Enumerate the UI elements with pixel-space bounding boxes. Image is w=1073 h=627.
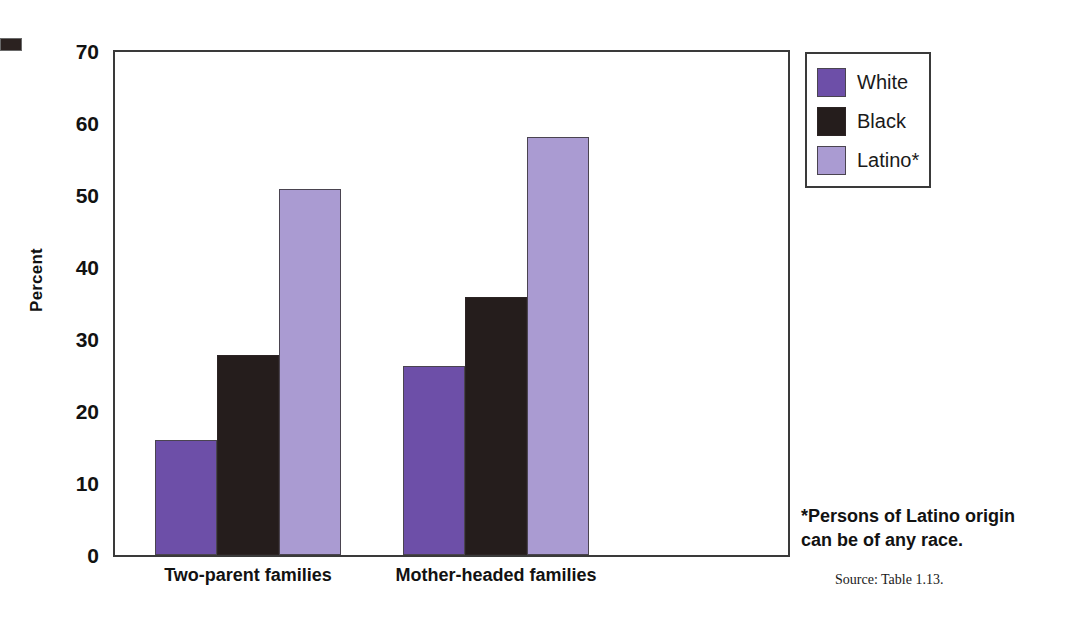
legend-label: Latino* (857, 149, 919, 172)
y-tick-label-0: 0 (39, 545, 99, 566)
legend-swatch-latino-icon (817, 146, 846, 175)
legend-swatch-white-icon (817, 68, 846, 97)
legend-label: White (857, 71, 908, 94)
legend-swatch-black-icon (817, 107, 846, 136)
bar-black-group-1 (217, 355, 279, 555)
bar-white-group-2 (403, 366, 465, 555)
legend-row-black: Black (817, 102, 929, 141)
legend-row-white: White (817, 63, 929, 102)
bar-white-group-1 (155, 440, 217, 555)
source-note: Source: Table 1.13. (835, 572, 943, 588)
y-tick-label-10: 10 (39, 473, 99, 494)
y-tick-label-40: 40 (39, 257, 99, 278)
bar-latino-group-1 (279, 189, 341, 555)
x-axis-group-label-2: Mother-headed families (346, 565, 646, 586)
chart-legend: WhiteBlackLatino* (805, 52, 931, 188)
legend-row-latino: Latino* (817, 141, 929, 180)
legend-label: Black (857, 110, 906, 133)
y-tick-label-20: 20 (39, 401, 99, 422)
footnote-line-1: *Persons of Latino origin (801, 505, 1066, 529)
footnote: *Persons of Latino origin can be of any … (801, 505, 1066, 553)
bar-latino-group-2 (527, 137, 589, 555)
bar-black-group-2 (465, 297, 527, 555)
y-tick-label-30: 30 (39, 329, 99, 350)
y-tick-label-60: 60 (39, 113, 99, 134)
footnote-line-2: can be of any race. (801, 529, 1066, 553)
y-tick-label-70: 70 (39, 41, 99, 62)
crop-mark (0, 38, 22, 51)
y-tick-label-50: 50 (39, 185, 99, 206)
